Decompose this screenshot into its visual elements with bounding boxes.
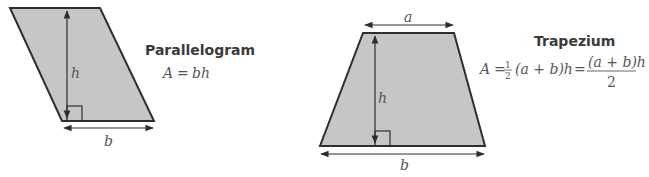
formula-equals-2: = xyxy=(574,61,586,77)
trapezium-title: Trapezium xyxy=(534,33,615,49)
trapezium-top-label: a xyxy=(404,9,412,25)
half-numerator: 1 xyxy=(505,60,511,70)
paren-expression: (a + b)h xyxy=(515,61,573,77)
parallelogram-figure: h b xyxy=(10,8,154,149)
parallelogram-formula: A = bh xyxy=(161,65,210,81)
parallelogram-title: Parallelogram xyxy=(145,42,255,58)
formula-equals: = xyxy=(177,65,189,81)
formula-lhs: A xyxy=(478,61,490,77)
parallelogram-base-label: b xyxy=(104,133,113,149)
formula-equals-1: = xyxy=(494,61,506,77)
fraction-numerator: (a + b)h xyxy=(588,54,646,70)
trapezium-shape xyxy=(320,33,485,146)
trapezium-formula: A = 1 2 (a + b)h = (a + b)h 2 xyxy=(478,54,646,90)
fraction-denominator: 2 xyxy=(607,74,616,90)
formula-lhs: A xyxy=(161,65,173,81)
trapezium-base-label: b xyxy=(400,157,409,173)
trapezium-height-label: h xyxy=(378,90,387,106)
parallelogram-shape xyxy=(10,8,154,121)
formula-rhs: bh xyxy=(192,65,210,81)
half-denominator: 2 xyxy=(505,71,511,81)
trapezium-figure: a h b xyxy=(320,9,485,173)
parallelogram-height-label: h xyxy=(71,65,80,81)
